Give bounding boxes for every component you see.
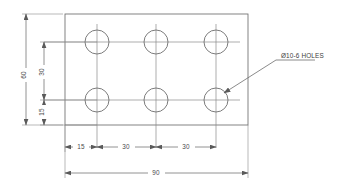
dimension-label-30-horizontal-a: 30 xyxy=(122,143,130,150)
dimension-label-30-vertical: 30 xyxy=(38,68,45,76)
dimension-horizontal-chain: 15 30 30 xyxy=(65,125,216,152)
dimension-label-30-horizontal-b: 30 xyxy=(182,143,190,150)
hole-callout-text: Ø10-6 HOLES xyxy=(281,52,324,59)
cad-drawing-svg: Ø10-6 HOLES 60 30 15 xyxy=(0,0,342,189)
dimension-label-90: 90 xyxy=(152,169,160,176)
dimension-horizontal-overall-90: 90 xyxy=(65,125,248,178)
row-centerlines xyxy=(44,42,240,100)
dimension-vertical-chain: 30 15 xyxy=(37,42,97,125)
dimension-label-60: 60 xyxy=(20,71,27,79)
engineering-drawing-canvas: Ø10-6 HOLES 60 30 15 xyxy=(0,0,342,189)
column-centerlines xyxy=(97,24,216,148)
dimension-label-15-horizontal: 15 xyxy=(77,143,85,150)
hole-callout-leader xyxy=(224,60,315,93)
dimension-label-15-vertical: 15 xyxy=(38,108,45,116)
